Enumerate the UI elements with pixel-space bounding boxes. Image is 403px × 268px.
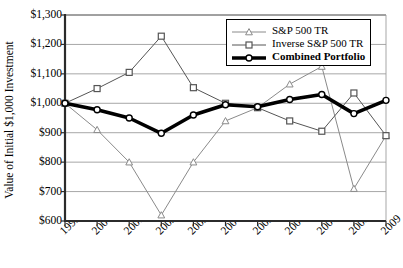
data-point-circle — [287, 96, 293, 102]
data-point-circle — [246, 55, 252, 61]
data-point-square — [94, 86, 100, 92]
legend-item-label: Combined Portfolio — [272, 50, 365, 62]
legend-item: Inverse S&P 500 TR — [231, 36, 365, 49]
data-point-circle — [190, 112, 196, 118]
legend-marker-triangle-icon — [231, 24, 267, 36]
data-point-square — [383, 133, 389, 139]
data-point-square — [246, 42, 252, 48]
data-point-square — [126, 69, 132, 75]
data-point-square — [319, 128, 325, 134]
data-point-circle — [94, 107, 100, 113]
data-point-circle — [62, 100, 68, 106]
data-point-circle — [158, 130, 164, 136]
legend-item: Combined Portfolio — [231, 49, 365, 62]
data-point-circle — [383, 97, 389, 103]
legend-item: S&P 500 TR — [231, 23, 365, 36]
data-point-circle — [255, 104, 261, 110]
data-point-square — [190, 85, 196, 91]
data-point-circle — [351, 111, 357, 117]
legend-marker-square-icon — [231, 37, 267, 49]
data-point-circle — [126, 115, 132, 121]
data-point-square — [351, 90, 357, 96]
data-point-square — [287, 118, 293, 124]
legend-marker-circle-icon — [231, 50, 267, 62]
data-point-circle — [223, 102, 229, 108]
data-point-square — [158, 33, 164, 39]
chart-legend: S&P 500 TRInverse S&P 500 TRCombined Por… — [226, 19, 371, 66]
data-point-circle — [319, 91, 325, 97]
legend-item-label: S&P 500 TR — [272, 24, 328, 36]
legend-item-label: Inverse S&P 500 TR — [272, 37, 363, 49]
